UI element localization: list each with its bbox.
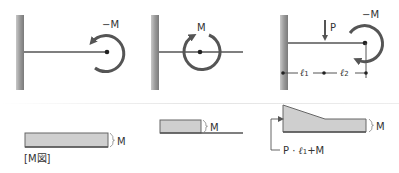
fixed-wall — [16, 15, 24, 90]
moment-diagram-3: M P · ℓ1+M — [271, 105, 385, 156]
brace-icon — [110, 133, 115, 147]
brace-icon — [203, 120, 208, 133]
moment-node — [105, 50, 110, 55]
moment-node — [198, 50, 203, 55]
moment-area — [25, 133, 108, 147]
moment-node — [363, 41, 368, 46]
moment-diagram-figure: −M M P −M ℓ1 ℓ2 — [0, 0, 399, 173]
moment-diagram-1: M [M図] — [24, 133, 126, 164]
cantilever-case-1: −M — [16, 15, 124, 90]
dim-label-l2: ℓ2 — [340, 67, 349, 78]
fixed-wall — [151, 15, 159, 90]
moment-value-label: M — [117, 136, 126, 147]
moment-label: −M — [362, 9, 379, 20]
separator — [0, 103, 399, 104]
moment-label: −M — [102, 19, 119, 30]
dimension-line — [281, 71, 368, 75]
moment-area — [283, 105, 366, 132]
peak-moment-label: P · ℓ1+M — [283, 145, 324, 156]
leader-arrow-icon — [271, 119, 281, 150]
moment-value-label: M — [210, 122, 219, 133]
brace-icon — [369, 119, 374, 132]
cantilever-case-2: M — [151, 15, 243, 90]
moment-diagram-2: M — [160, 120, 243, 133]
moment-area — [160, 120, 201, 133]
diagram-caption: [M図] — [24, 153, 51, 164]
load-label: P — [330, 22, 336, 33]
moment-value-label: M — [376, 121, 385, 132]
dim-label-l1: ℓ1 — [300, 67, 309, 78]
cantilever-case-3: P −M ℓ1 ℓ2 — [280, 9, 383, 90]
fixed-wall — [280, 15, 288, 90]
moment-label: M — [197, 22, 206, 33]
